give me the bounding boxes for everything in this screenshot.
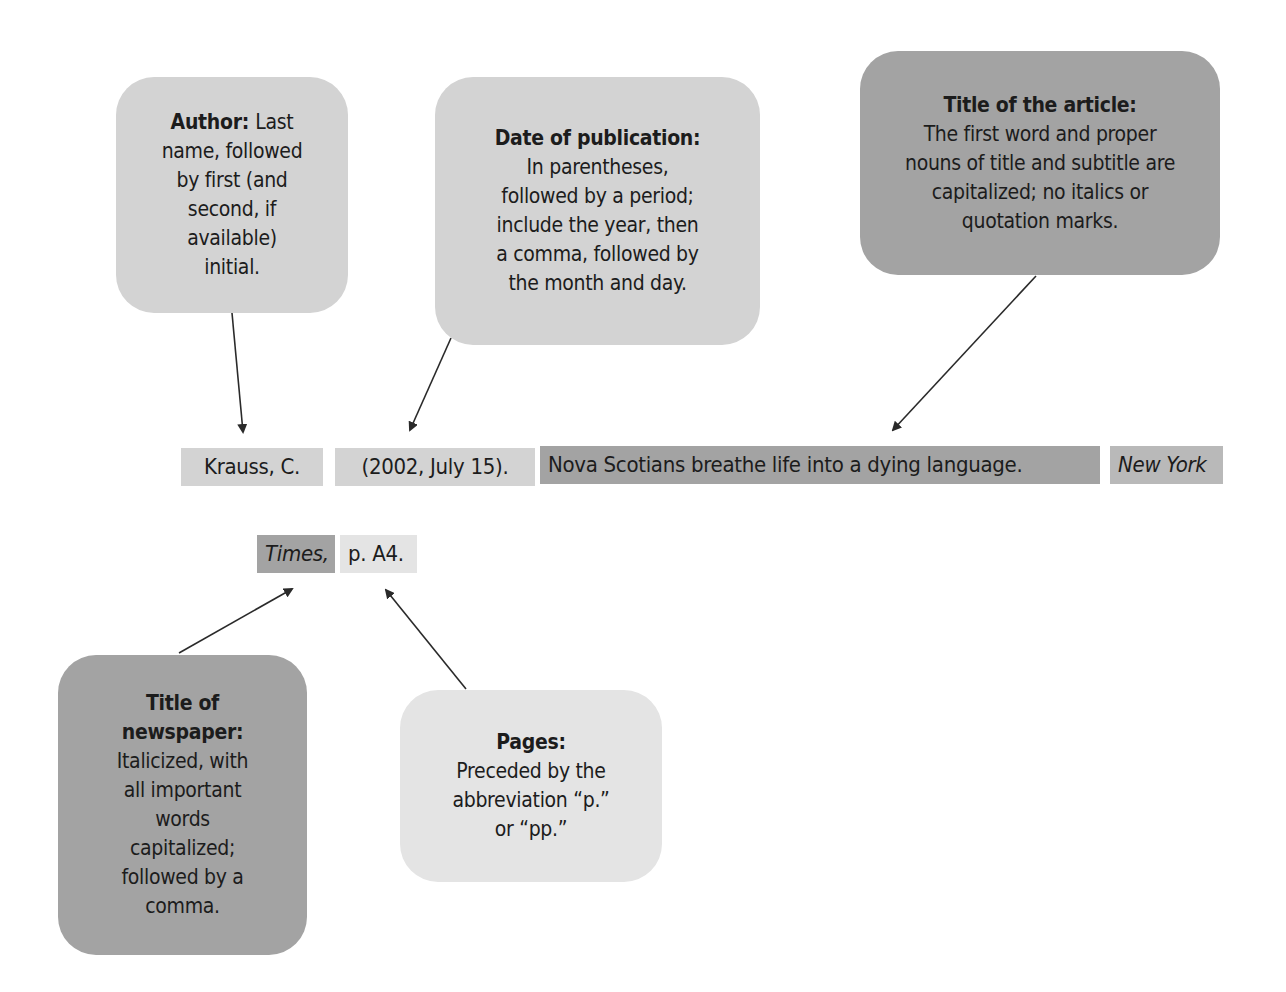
callout-line: words: [155, 805, 210, 834]
arrow-newspaper: [179, 589, 292, 653]
arrow-author: [232, 313, 243, 432]
callout-line: nouns of title and subtitle are: [905, 149, 1175, 178]
callout-date: Date of publication: In parentheses, fol…: [435, 77, 760, 345]
citation-pages: p. A4.: [340, 535, 417, 573]
callout-line: Last: [255, 110, 293, 134]
callout-heading: Title of: [146, 689, 219, 718]
citation-newspaper-part1: New York: [1110, 446, 1223, 484]
callout-line: comma.: [145, 892, 220, 921]
callout-line: the month and day.: [508, 269, 686, 298]
callout-line: The first word and proper: [924, 120, 1157, 149]
callout-line: second, if: [188, 197, 276, 221]
callout-line: or “pp.”: [495, 815, 567, 844]
callout-line: capitalized; no italics or: [932, 178, 1149, 207]
callout-line: abbreviation “p.”: [452, 786, 609, 815]
callout-line: quotation marks.: [962, 207, 1118, 236]
citation-date: (2002, July 15).: [335, 448, 535, 486]
callout-line: available): [187, 226, 277, 250]
callout-heading: newspaper:: [122, 718, 243, 747]
callout-heading: Author:: [171, 110, 256, 134]
callout-line: Preceded by the: [456, 757, 605, 786]
callout-author: Author: Last name, followed by first (an…: [116, 77, 348, 313]
callout-heading: Date of publication:: [495, 124, 701, 153]
callout-line: capitalized;: [130, 834, 235, 863]
citation-newspaper-part2: Times,: [257, 535, 335, 573]
callout-line: name, followed: [162, 139, 303, 163]
callout-newspaper-title: Title of newspaper: Italicized, with all…: [58, 655, 307, 955]
callout-author-text: Author: Last name, followed by first (an…: [162, 108, 303, 282]
arrow-date: [410, 338, 451, 430]
callout-pages: Pages: Preceded by the abbreviation “p.”…: [400, 690, 662, 882]
callout-heading: Pages:: [496, 728, 565, 757]
callout-line: by first (and: [176, 168, 287, 192]
callout-line: include the year, then: [497, 211, 699, 240]
citation-author: Krauss, C.: [181, 448, 323, 486]
callout-line: initial.: [204, 255, 260, 279]
callout-line: Italicized, with: [117, 747, 249, 776]
callout-line: a comma, followed by: [496, 240, 698, 269]
callout-article-title: Title of the article: The first word and…: [860, 51, 1220, 275]
callout-line: all important: [124, 776, 242, 805]
callout-line: followed by a period;: [501, 182, 693, 211]
arrow-pages: [386, 590, 466, 689]
callout-line: In parentheses,: [527, 153, 669, 182]
callout-line: followed by a: [121, 863, 243, 892]
arrow-article-title: [893, 276, 1036, 430]
callout-heading: Title of the article:: [943, 91, 1136, 120]
citation-article-title: Nova Scotians breathe life into a dying …: [540, 446, 1100, 484]
